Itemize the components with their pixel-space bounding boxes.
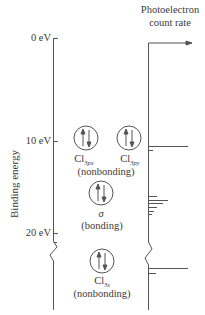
tick-label-0ev: 0 eV (31, 32, 51, 44)
nonbonding-s-label: (nonbonding) (73, 288, 130, 300)
orbital-3s-circle (90, 249, 114, 273)
chart-title-line2: count rate (149, 17, 191, 29)
orbital-3px-circle (74, 126, 98, 150)
chart-title-line1: Photoelectron (141, 4, 199, 16)
nonbonding-p-label: (nonbonding) (77, 166, 134, 178)
bonding-label: (bonding) (81, 220, 122, 232)
orbital-3py-circle (117, 126, 141, 150)
energy-diagram (0, 0, 205, 315)
electron-pair-icon (124, 129, 134, 147)
tick-label-20ev: 20 eV (26, 227, 51, 239)
electron-pair-icon (97, 252, 107, 270)
arrow-head-icon (186, 41, 192, 45)
count-rate-axis (145, 43, 190, 310)
orbital-sigma-circle (89, 181, 113, 205)
y-axis-label: Binding energy (8, 150, 20, 218)
sigma-label: σ (98, 208, 103, 220)
binding-energy-axis (50, 38, 57, 310)
electron-pair-icon (96, 184, 106, 202)
tick-label-10ev: 10 eV (26, 135, 51, 147)
electron-pair-icon (81, 129, 91, 147)
